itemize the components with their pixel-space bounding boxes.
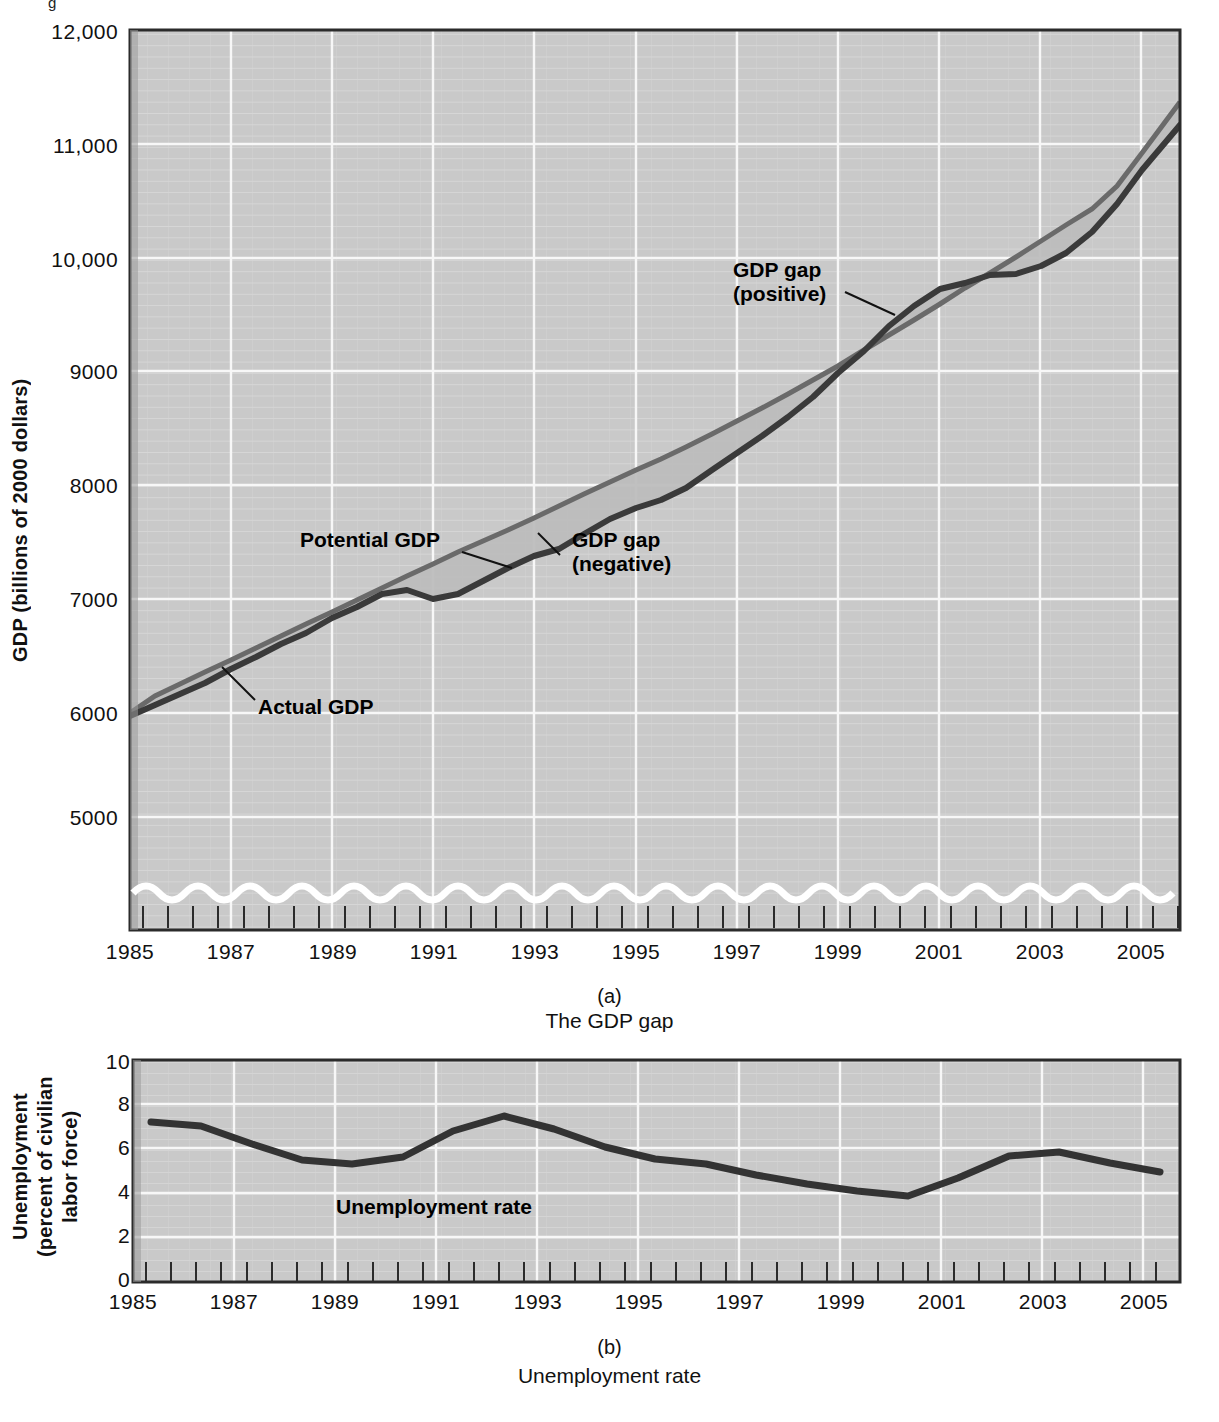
y-tick-9000: 9000 [8,360,118,384]
y-tick-11000: 11,000 [8,134,118,158]
x-tick-1993-a: 1993 [490,940,580,964]
x-tick-1999-b: 1999 [796,1290,886,1314]
panel-b-y-axis-label: Unemployment (percent of civilian labor … [8,1058,83,1276]
annotation-actual-gdp: Actual GDP [258,695,374,719]
x-tick-2001-b: 2001 [897,1290,987,1314]
annotation-gdp-gap-positive-line2: (positive) [733,282,826,306]
annotation-gdp-gap-negative: GDP gap (negative) [572,528,671,576]
x-tick-2005-b: 2005 [1099,1290,1189,1314]
y-tick-2-b: 2 [90,1224,130,1248]
annotation-gdp-gap-positive: GDP gap (positive) [733,258,826,306]
clipped-header-fragment: g [48,0,168,12]
panel-b-caption-letter: (b) [0,1336,1219,1359]
annotation-potential-gdp: Potential GDP [300,528,440,552]
x-tick-1989-a: 1989 [288,940,378,964]
y-tick-5000: 5000 [8,806,118,830]
x-tick-2003-b: 2003 [998,1290,1088,1314]
x-tick-1985-a: 1985 [85,940,175,964]
x-tick-1987-a: 1987 [186,940,276,964]
y-tick-0-b: 0 [90,1268,130,1292]
gdp-gap-plot [0,0,1219,1040]
y-tick-10-b: 10 [90,1050,130,1074]
panel-a-caption-text: The GDP gap [0,1009,1219,1033]
plot-background-b [133,1060,1180,1282]
annotation-potential-gdp-line1: Potential GDP [300,528,440,551]
unemployment-panel: Unemployment (percent of civilian labor … [0,1040,1219,1422]
panel-b-ylabel-line3: labor force) [59,1111,81,1223]
x-tick-1997-a: 1997 [692,940,782,964]
y-tick-8-b: 8 [90,1092,130,1116]
x-tick-1993-b: 1993 [493,1290,583,1314]
x-tick-1995-a: 1995 [591,940,681,964]
x-tick-2003-a: 2003 [995,940,1085,964]
x-tick-1999-a: 1999 [793,940,883,964]
annotation-unemployment-rate-line1: Unemployment rate [336,1195,532,1218]
y-tick-8000: 8000 [8,474,118,498]
annotation-gdp-gap-positive-line1: GDP gap [733,258,826,282]
x-tick-1985-b: 1985 [88,1290,178,1314]
annotation-unemployment-rate: Unemployment rate [336,1195,532,1219]
y-tick-7000: 7000 [8,588,118,612]
y-tick-10000: 10,000 [8,248,118,272]
x-tick-1987-b: 1987 [189,1290,279,1314]
y-tick-6000: 6000 [8,702,118,726]
annotation-gdp-gap-negative-line1: GDP gap [572,528,671,552]
panel-b-caption-text: Unemployment rate [0,1364,1219,1388]
x-tick-2005-a: 2005 [1096,940,1186,964]
y-tick-4-b: 4 [90,1180,130,1204]
panel-b-ylabel-line2: (percent of civilian [34,1077,56,1258]
axis-inner-shade-b [133,1060,141,1282]
panel-a-y-axis-label: GDP (billions of 2000 dollars) [8,330,33,710]
x-tick-1995-b: 1995 [594,1290,684,1314]
x-tick-2001-a: 2001 [894,940,984,964]
x-tick-1991-b: 1991 [391,1290,481,1314]
x-axis-quarter-ticks-b [146,1262,1156,1281]
gdp-gap-panel: g GDP (billions of 2000 dollars) 12,000 … [0,0,1219,1040]
annotation-gdp-gap-negative-line2: (negative) [572,552,671,576]
x-tick-1989-b: 1989 [290,1290,380,1314]
annotation-actual-gdp-line1: Actual GDP [258,695,374,718]
x-tick-1991-a: 1991 [389,940,479,964]
y-tick-6-b: 6 [90,1136,130,1160]
panel-a-caption-letter: (a) [0,985,1219,1008]
panel-b-ylabel-line1: Unemployment [9,1094,31,1241]
axis-inner-shade-a [130,30,138,930]
y-tick-12000: 12,000 [8,20,118,44]
x-tick-1997-b: 1997 [695,1290,785,1314]
